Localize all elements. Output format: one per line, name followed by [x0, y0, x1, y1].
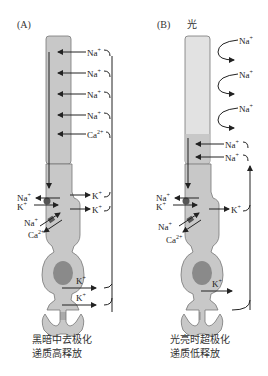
panel-a-label: (A) — [17, 19, 31, 31]
photoreceptor-diagram: (A) Na+ Na+ — [0, 0, 268, 376]
svg-text:Na+: Na+ — [225, 139, 240, 150]
svg-text:K+: K+ — [92, 190, 103, 201]
current-loop — [104, 50, 112, 312]
svg-text:Na+: Na+ — [158, 221, 173, 232]
svg-text:K+: K+ — [17, 201, 28, 212]
blocked-ion-labels: Na+ Na+ Na+ — [239, 35, 254, 114]
outer-segment-ion-labels: Na+ Na+ Na+ Na+ Ca2+ — [87, 47, 104, 140]
panel-a: (A) Na+ Na+ — [17, 19, 112, 359]
caption-a-line1: 黑暗中去极化 — [32, 333, 92, 345]
svg-text:Ca2+: Ca2+ — [28, 229, 45, 240]
svg-text:Na+: Na+ — [87, 89, 102, 100]
caption-b-line1: 光亮时超极化 — [170, 333, 230, 345]
cell-body — [42, 164, 84, 336]
svg-text:Na+: Na+ — [225, 152, 240, 163]
svg-text:K+: K+ — [92, 204, 103, 215]
svg-text:K+: K+ — [76, 275, 87, 286]
svg-text:Na+: Na+ — [87, 110, 102, 121]
panel-b: (B) 光 Na+ Na+ Na+ — [156, 18, 254, 359]
svg-text:K+: K+ — [76, 292, 87, 303]
svg-text:K+: K+ — [156, 201, 167, 212]
nucleus — [53, 261, 73, 285]
svg-text:Na+: Na+ — [87, 68, 102, 79]
panel-b-label: (B) — [157, 19, 170, 31]
caption-a-line2: 递质高释放 — [32, 347, 82, 359]
svg-text:K+: K+ — [231, 204, 242, 215]
light-label: 光 — [187, 18, 197, 30]
current-loop — [232, 142, 250, 310]
svg-text:K+: K+ — [212, 278, 223, 289]
svg-text:Ca2+: Ca2+ — [166, 234, 183, 245]
svg-text:Na+: Na+ — [239, 69, 254, 80]
svg-text:Na+: Na+ — [239, 35, 254, 46]
cell-body — [181, 164, 223, 336]
blocked-influx — [218, 40, 238, 128]
svg-text:Na+: Na+ — [87, 47, 102, 58]
svg-text:Ca2+: Ca2+ — [87, 129, 104, 140]
nucleus — [192, 261, 212, 285]
outer-segment-base — [185, 134, 209, 164]
svg-text:Na+: Na+ — [239, 103, 254, 114]
svg-text:Na+: Na+ — [24, 217, 39, 228]
outer-segment — [46, 36, 71, 164]
caption-b-line2: 递质低释放 — [170, 347, 220, 359]
